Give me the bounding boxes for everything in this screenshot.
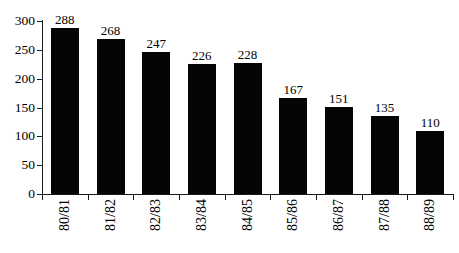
- y-axis-tick-label: 200: [15, 72, 35, 86]
- bar: [97, 39, 125, 194]
- x-axis-tick-label: 80/81: [58, 199, 72, 231]
- x-axis-tick-label: 85/86: [286, 199, 300, 231]
- bar-value-label: 228: [238, 48, 258, 61]
- bar: [142, 52, 170, 194]
- y-axis-tick-label: 0: [28, 187, 35, 201]
- x-axis-tick-label: 83/84: [195, 199, 209, 231]
- x-axis-tick: [88, 195, 89, 200]
- bar: [234, 63, 262, 194]
- x-axis-tick-label: 87/88: [378, 199, 392, 231]
- y-axis-tick-label: 50: [22, 158, 36, 172]
- x-axis-tick-label: 86/87: [332, 199, 346, 231]
- x-axis-tick-label: 81/82: [104, 199, 118, 231]
- y-axis-tick-label: 150: [15, 101, 35, 115]
- bar-value-label: 288: [55, 13, 75, 26]
- y-axis-tick-label: 300: [15, 14, 35, 28]
- bar-value-label: 226: [192, 49, 212, 62]
- x-axis-line: [42, 194, 454, 195]
- x-axis-tick: [407, 195, 408, 200]
- x-axis-tick-label: 84/85: [241, 199, 255, 231]
- y-axis-tick: [37, 136, 42, 137]
- bar: [371, 116, 399, 194]
- x-axis-tick: [133, 195, 134, 200]
- bar: [51, 28, 79, 194]
- bar: [188, 64, 216, 194]
- x-axis-tick: [453, 195, 454, 200]
- bar: [325, 107, 353, 194]
- bar-value-label: 151: [329, 92, 349, 105]
- x-axis-tick: [42, 195, 43, 200]
- bar-value-label: 167: [283, 83, 303, 96]
- y-axis-tick: [37, 50, 42, 51]
- x-axis-tick-label: 88/89: [423, 199, 437, 231]
- x-axis-tick: [362, 195, 363, 200]
- bar: [416, 131, 444, 194]
- x-axis-tick: [316, 195, 317, 200]
- y-axis-tick: [37, 108, 42, 109]
- x-axis-tick: [179, 195, 180, 200]
- y-axis-tick-label: 100: [15, 129, 35, 143]
- bar-value-label: 110: [421, 116, 440, 129]
- x-axis-tick-label: 82/83: [149, 199, 163, 231]
- bar-value-label: 135: [375, 101, 395, 114]
- bar-value-label: 247: [146, 37, 166, 50]
- y-axis-tick: [37, 21, 42, 22]
- x-axis-tick: [225, 195, 226, 200]
- bar-value-label: 268: [101, 24, 121, 37]
- y-axis-line: [42, 20, 43, 195]
- y-axis-tick: [37, 165, 42, 166]
- x-axis-tick: [270, 195, 271, 200]
- y-axis-tick-label: 250: [15, 43, 35, 57]
- bar: [279, 98, 307, 194]
- y-axis-tick: [37, 79, 42, 80]
- bar-chart: 05010015020025030028880/8126881/8224782/…: [0, 0, 459, 253]
